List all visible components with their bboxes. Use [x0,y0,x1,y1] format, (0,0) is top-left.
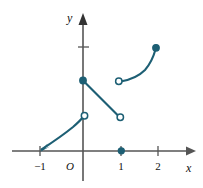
series-branch-left-arc [40,113,88,152]
branch-middle-segment-end-open-circle [117,114,123,120]
origin-label: O [66,160,74,172]
y-axis-arrowhead [79,13,88,25]
branch-left-arc-end-open-circle [81,113,87,119]
isolated-point-filled-circle [118,148,124,154]
branch-left-arc-path [42,117,84,150]
y-axis-label: y [66,11,73,25]
x-axis-label: x [185,161,192,175]
branch-middle-segment-path [83,81,119,117]
x-tick-label-1: 1 [118,160,124,172]
branch-right-arc-end-filled-circle [153,45,159,51]
series-isolated-point [118,148,124,154]
series-branch-right-arc [116,45,160,85]
x-tick-label-minus-1: −1 [34,160,46,172]
branch-middle-segment-start-filled-circle [80,77,86,83]
branch-right-arc-path [121,50,156,82]
graph-canvas: y x O −1 1 2 [0,0,203,188]
piecewise-function-graph-figure: y x O −1 1 2 [0,0,203,188]
branch-right-arc-start-open-circle [116,78,122,84]
x-axis-arrowhead [186,147,196,156]
x-tick-label-2: 2 [155,160,161,172]
